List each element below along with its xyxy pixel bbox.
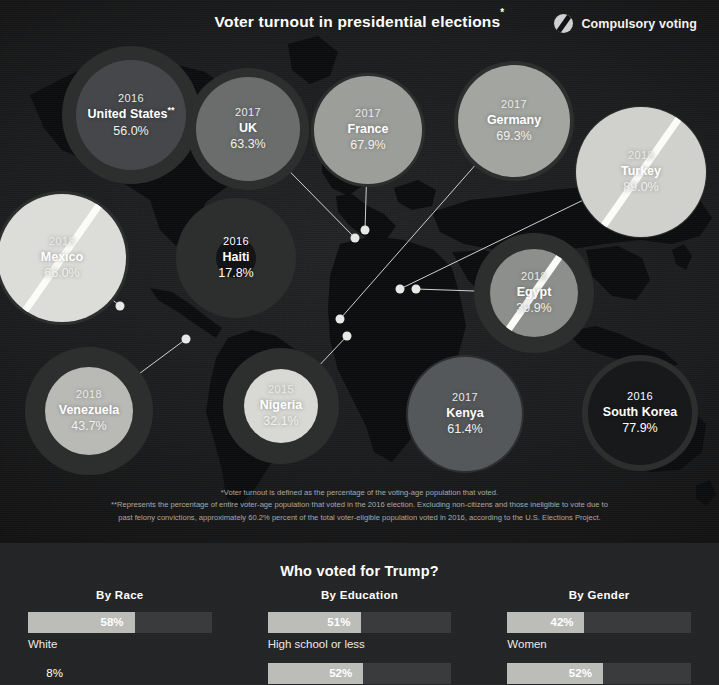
bar-chart-columns: By Race58%White8%8%By Education51%High s… <box>0 589 719 685</box>
bubble-value-disc <box>45 367 133 455</box>
bar-group-title: By Race <box>28 589 212 601</box>
footnote-3: past felony convictions, approximately 6… <box>28 512 691 524</box>
bubble-value-disc <box>216 238 256 278</box>
bubble-value-disc <box>576 107 706 237</box>
legend: Compulsory voting <box>554 14 697 33</box>
bar-track: 42% <box>507 612 691 633</box>
bubble-value-disc <box>76 60 186 170</box>
bubble-value-disc <box>408 357 522 471</box>
map-pin-dot <box>343 332 352 341</box>
map-pin-dot <box>116 302 125 311</box>
compulsory-voting-stripe-icon <box>493 249 574 337</box>
compulsory-voting-stripe-icon <box>4 194 120 322</box>
bar-category-label: Women <box>507 638 691 650</box>
country-bubble[interactable]: 2016United States**56.0% <box>62 46 200 184</box>
bottom-section-title: Who voted for Trump? <box>0 563 719 579</box>
bar-fill <box>28 663 43 684</box>
bubble-value-disc <box>314 76 422 184</box>
country-bubble[interactable]: 2018Mexico66.0% <box>0 191 129 325</box>
country-bubble[interactable]: 2016Haiti17.8% <box>176 198 296 318</box>
bar-track: 58% <box>28 612 212 633</box>
bar-track: 51% <box>268 612 452 633</box>
legend-label: Compulsory voting <box>581 17 697 31</box>
bar-value-label: 52% <box>329 663 352 684</box>
bar-category-label: White <box>28 638 212 650</box>
country-bubble[interactable]: 2016South Korea77.9% <box>582 355 698 471</box>
bubble-value-disc <box>458 65 570 177</box>
country-bubble[interactable]: 2017Kenya61.4% <box>406 355 524 473</box>
map-pin-dot <box>351 234 360 243</box>
map-pin-dot <box>336 315 345 324</box>
map-pin-dot <box>396 285 405 294</box>
bar-group: By Education51%High school or less52% <box>240 589 480 685</box>
country-bubble[interactable]: 2018Venezuela43.7% <box>25 347 153 475</box>
bar-category-label: High school or less <box>268 638 452 650</box>
bar-group: By Gender42%Women52% <box>479 589 719 685</box>
map-pin-dot <box>412 285 421 294</box>
country-bubble[interactable]: 2017UK63.3% <box>187 68 309 190</box>
world-map-panel: Voter turnout in presidential elections*… <box>0 0 719 543</box>
bar-track: 52% <box>507 663 691 684</box>
bar-group-title: By Gender <box>507 589 691 601</box>
bubble-value-disc <box>490 249 578 337</box>
infographic-page: Voter turnout in presidential elections*… <box>0 0 719 685</box>
page-title-text: Voter turnout in presidential elections <box>215 13 501 30</box>
bar-group: By Race58%White8%8% <box>0 589 240 685</box>
map-pin-dot <box>361 226 370 235</box>
footnote-2: **Represents the percentage of entire vo… <box>28 499 691 511</box>
bar-track: 8% <box>28 663 212 684</box>
bubble-value-disc <box>196 77 300 181</box>
bar-value-label: 42% <box>550 612 573 633</box>
page-title-footnote-marker: * <box>500 7 504 18</box>
country-bubble[interactable]: 2018Turkey89.0% <box>575 106 707 238</box>
bubble-value-disc <box>0 194 126 322</box>
bar-track: 52% <box>268 663 452 684</box>
bar-value-label: 52% <box>569 663 592 684</box>
compulsory-voting-stripe-icon <box>582 107 700 237</box>
striped-circle-icon <box>554 14 573 33</box>
bar-value-label: 58% <box>101 612 124 633</box>
country-bubble[interactable]: 2017France67.9% <box>311 73 425 187</box>
map-pin-dot <box>182 335 191 344</box>
bubble-value-disc <box>244 369 318 443</box>
who-voted-for-trump-panel: Who voted for Trump? By Race58%White8%8%… <box>0 543 719 685</box>
bar-value-label: 8% <box>46 663 63 684</box>
country-bubble[interactable]: 2015Nigeria32.1% <box>223 348 339 464</box>
bubble-value-disc <box>588 361 692 465</box>
country-bubble[interactable]: 2018Egypt39.9% <box>474 233 594 353</box>
footnote-1: *Voter turnout is defined as the percent… <box>28 487 691 499</box>
bar-value-label: 51% <box>327 612 350 633</box>
country-bubble[interactable]: 2017Germany69.3% <box>454 61 574 181</box>
footnotes: *Voter turnout is defined as the percent… <box>0 487 719 524</box>
bar-group-title: By Education <box>268 589 452 601</box>
